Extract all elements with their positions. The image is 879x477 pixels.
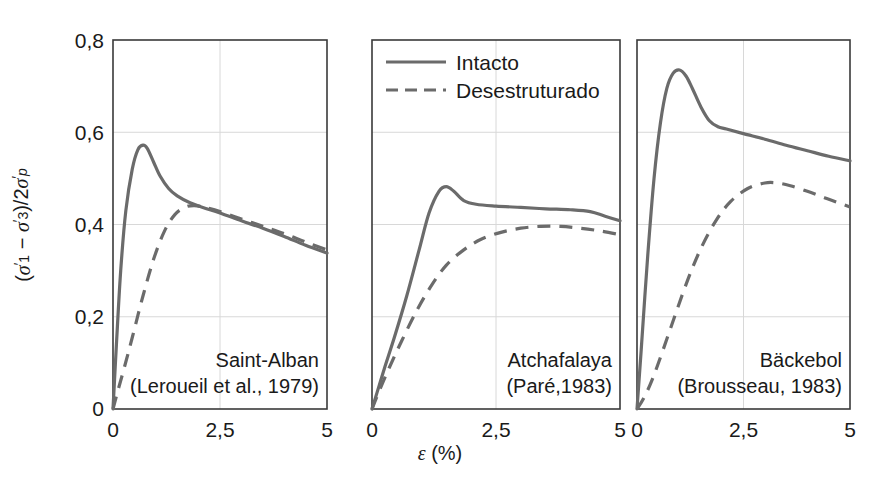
x-tick-labels: 02,55 — [366, 418, 626, 441]
panel-annotation-reference: (Leroueil et al., 1979) — [130, 375, 319, 397]
svg-text:ε (%): ε (%) — [418, 442, 463, 464]
x-tick-label: 0 — [107, 418, 119, 441]
x-tick-label: 5 — [844, 418, 856, 441]
legend: Intacto Desestruturado — [386, 51, 600, 102]
y-tick-label: 0,6 — [75, 121, 104, 144]
panel-1: 02,55Saint-Alban(Leroueil et al., 1979) — [107, 40, 333, 441]
x-tick-label: 0 — [366, 418, 378, 441]
panel-3: 02,55Bäckebol(Brousseau, 1983) — [631, 40, 856, 441]
y-tick-label: 0,8 — [75, 29, 104, 52]
panel-annotation-title: Saint-Alban — [216, 349, 319, 371]
figure-container: (σ′1 − σ′3)/2σ′p ε (%) 0,8 0,6 0,4 0,2 0… — [0, 0, 879, 477]
x-tick-label: 2,5 — [729, 418, 758, 441]
y-axis-title: (σ′1 − σ′3)/2σ′p — [9, 168, 34, 282]
y-tick-label: 0,4 — [75, 213, 105, 236]
panel-annotation-title: Atchafalaya — [507, 349, 612, 371]
x-tick-label: 2,5 — [481, 418, 510, 441]
x-tick-labels: 02,55 — [107, 418, 333, 441]
svg-text:(σ′1 − σ′3)/2σ′p: (σ′1 − σ′3)/2σ′p — [9, 168, 34, 282]
y-tick-label: 0,2 — [75, 305, 104, 328]
legend-label-desestruturado: Desestruturado — [456, 79, 600, 102]
x-tick-label: 0 — [631, 418, 643, 441]
panel-annotation-reference: (Brousseau, 1983) — [677, 375, 842, 397]
x-axis-title: ε (%) — [418, 442, 463, 464]
y-tick-labels: 0,8 0,6 0,4 0,2 0 — [75, 29, 105, 420]
y-tick-label: 0 — [92, 397, 104, 420]
x-tick-labels: 02,55 — [631, 418, 856, 441]
panel-annotation-title: Bäckebol — [760, 349, 842, 371]
triaxial-stress-strain-chart: (σ′1 − σ′3)/2σ′p ε (%) 0,8 0,6 0,4 0,2 0… — [0, 0, 879, 477]
x-tick-label: 5 — [321, 418, 333, 441]
x-tick-label: 5 — [614, 418, 626, 441]
panel-annotation-reference: (Paré,1983) — [506, 375, 612, 397]
legend-label-intacto: Intacto — [456, 51, 519, 74]
x-tick-label: 2,5 — [205, 418, 234, 441]
